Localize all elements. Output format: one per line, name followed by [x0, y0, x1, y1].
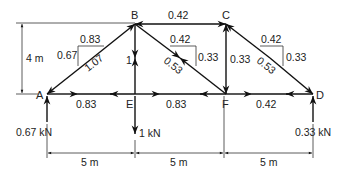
height-label: 4 m — [26, 52, 44, 64]
force-label-cf: 0.33 — [230, 53, 251, 65]
force-label-bc: 0.42 — [168, 9, 189, 21]
node-label-e: E — [126, 98, 133, 110]
load-label-e: 1 kN — [139, 127, 161, 139]
triangle-cd: 0.42 0.33 0.53 — [255, 33, 307, 76]
member-bf-lower — [180, 58, 226, 94]
node-label-a: A — [36, 89, 44, 101]
triangle-bf: 0.42 0.33 0.53 — [162, 33, 219, 76]
force-label-ae: 0.83 — [76, 98, 97, 110]
member-cd-lower — [270, 58, 313, 94]
span-label-1: 5 m — [81, 156, 99, 168]
triangle-bf-h-label: 0.42 — [170, 33, 191, 45]
triangle-bf-resultant-label: 0.53 — [162, 54, 186, 76]
node-label-b: B — [131, 9, 138, 21]
triangle-cd-v-label: 0.33 — [286, 51, 307, 63]
triangle-ab-resultant-label: 1.07 — [82, 51, 106, 73]
triangle-bf-v-label: 0.33 — [198, 51, 219, 63]
truss-diagram: 4 m A B C D — [0, 0, 350, 181]
node-label-c: C — [222, 9, 230, 21]
triangle-cd-h-label: 0.42 — [261, 33, 282, 45]
force-label-be: 1 — [126, 54, 132, 66]
node-label-d: D — [316, 89, 324, 101]
triangle-ab-v-label: 0.67 — [57, 49, 78, 61]
triangle-cd-resultant-label: 0.53 — [255, 54, 279, 76]
span-label-3: 5 m — [260, 156, 278, 168]
force-label-fd: 0.42 — [256, 98, 277, 110]
triangle-ab-h-label: 0.83 — [80, 33, 101, 45]
node-label-f: F — [222, 98, 229, 110]
span-label-2: 5 m — [170, 156, 188, 168]
force-label-ef: 0.83 — [166, 98, 187, 110]
